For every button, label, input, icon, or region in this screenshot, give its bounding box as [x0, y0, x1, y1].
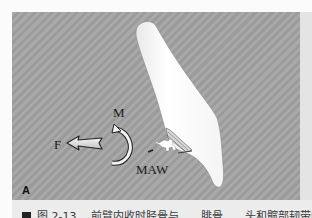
moment-arc-arrow-icon — [112, 124, 130, 163]
figure-caption: 图 2-13 前臂内收时胫骨与……腓骨……头和髋部韧带的连接 — [22, 210, 312, 218]
force-label: F — [54, 138, 61, 151]
maw-label: MAW — [136, 163, 168, 176]
caption-text: 图 2-13 前臂内收时胫骨与……腓骨……头和髋部韧带的连接 — [37, 210, 312, 218]
figure-illustration — [0, 0, 312, 218]
force-arrow-icon — [67, 136, 102, 150]
caption-bullet-icon — [22, 212, 31, 218]
panel-letter: A — [22, 184, 30, 196]
moment-label: M — [113, 106, 125, 119]
animal-silhouette-icon — [155, 139, 176, 151]
marker-dash — [148, 150, 153, 152]
